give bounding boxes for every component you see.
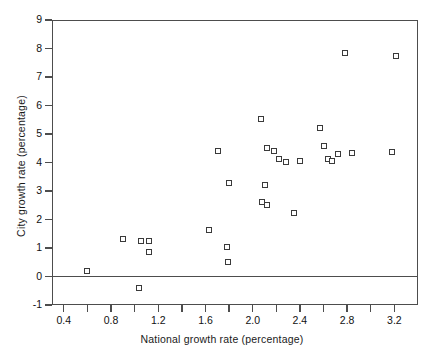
y-axis-title: City growth rate (percentage): [15, 66, 27, 266]
data-point: [271, 148, 277, 154]
data-point: [283, 159, 289, 165]
y-axis-tick-label: 9: [2, 14, 42, 24]
x-axis-tick: [299, 305, 300, 312]
data-point: [215, 148, 221, 154]
x-axis-tick-label: 2.8: [327, 314, 367, 326]
y-axis-tick: [45, 304, 52, 305]
data-point: [276, 156, 282, 162]
data-point: [349, 150, 355, 156]
y-axis-tick: [45, 219, 52, 220]
data-point: [258, 116, 264, 122]
y-axis-tick: [45, 190, 52, 191]
data-point: [321, 143, 327, 149]
x-axis-tick-label: 0.8: [91, 314, 131, 326]
data-point: [264, 202, 270, 208]
x-axis-tick-label: 0.4: [44, 314, 84, 326]
data-point: [342, 50, 348, 56]
y-axis-tick: [45, 76, 52, 77]
y-axis-tick-label: 0: [2, 271, 42, 281]
x-axis-tick-label: 2.0: [233, 314, 273, 326]
data-point: [262, 182, 268, 188]
data-point: [206, 227, 212, 233]
y-axis-tick-label: 8: [2, 43, 42, 53]
plot-area: [52, 20, 418, 305]
data-point: [335, 151, 341, 157]
data-point: [389, 149, 395, 155]
x-axis-tick: [205, 305, 206, 312]
scatter-chart: -10123456789 0.40.81.21.62.02.42.83.2 Na…: [0, 0, 444, 356]
x-axis-tick-label: 1.2: [138, 314, 178, 326]
y-axis-tick-label: -1: [2, 299, 42, 309]
x-axis-tick: [276, 305, 277, 312]
y-axis-tick: [45, 48, 52, 49]
y-axis-tick: [45, 19, 52, 20]
x-axis-tick: [228, 305, 229, 312]
zero-line: [52, 276, 418, 278]
data-point: [329, 158, 335, 164]
x-axis-tick: [346, 305, 347, 312]
x-axis-tick: [87, 305, 88, 312]
data-point: [393, 53, 399, 59]
data-point: [264, 145, 270, 151]
data-point: [225, 259, 231, 265]
x-axis-tick-label: 1.6: [185, 314, 225, 326]
y-axis-tick: [45, 276, 52, 277]
x-axis-tick-label: 2.4: [280, 314, 320, 326]
x-axis-tick: [370, 305, 371, 312]
data-point: [317, 125, 323, 131]
y-axis-tick: [45, 247, 52, 248]
data-point: [120, 236, 126, 242]
data-point: [138, 238, 144, 244]
x-axis-tick-label: 3.2: [374, 314, 414, 326]
data-point: [226, 180, 232, 186]
data-point: [136, 285, 142, 291]
y-axis-tick: [45, 133, 52, 134]
x-axis-tick: [63, 305, 64, 312]
data-point: [297, 158, 303, 164]
x-axis-tick: [134, 305, 135, 312]
data-point: [224, 244, 230, 250]
data-point: [146, 238, 152, 244]
x-axis-tick: [158, 305, 159, 312]
x-axis-tick: [252, 305, 253, 312]
y-axis-tick: [45, 105, 52, 106]
data-point: [84, 268, 90, 274]
x-axis-tick: [323, 305, 324, 312]
x-axis-title: National growth rate (percentage): [0, 333, 444, 345]
data-point: [146, 249, 152, 255]
data-point: [291, 210, 297, 216]
x-axis-tick: [110, 305, 111, 312]
x-axis-tick: [181, 305, 182, 312]
x-axis-tick: [394, 305, 395, 312]
y-axis-tick: [45, 162, 52, 163]
